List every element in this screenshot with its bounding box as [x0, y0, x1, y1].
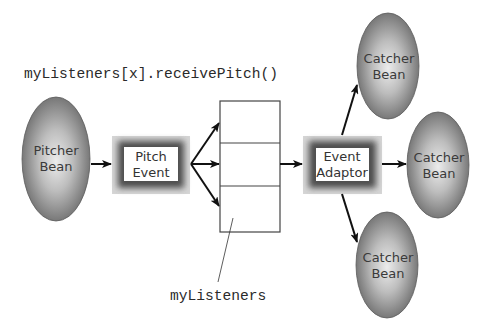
- pitch-event-label-2: Event: [132, 165, 169, 180]
- catcher-bean-middle-label-2: Bean: [422, 166, 455, 181]
- code-caption: myListeners[x].receivePitch(): [24, 66, 278, 82]
- event-adaptor-box: Event Adaptor: [303, 136, 382, 194]
- fan-out-arrows: [191, 123, 219, 206]
- catcher-bean-bottom-shape: [356, 212, 418, 318]
- catcher-bean-bottom: Catcher Bean: [356, 212, 418, 318]
- pitcher-bean: Pitcher Bean: [22, 97, 90, 221]
- pitch-event-box: Pitch Event: [112, 136, 190, 194]
- event-flow-diagram: myListeners[x].receivePitch() Pitcher Be…: [0, 0, 482, 329]
- catcher-bean-middle-shape: [407, 112, 469, 218]
- arrow-to-slot-1: [191, 123, 219, 164]
- catcher-bean-middle: Catcher Bean: [407, 112, 469, 218]
- pitcher-bean-label-1: Pitcher: [34, 143, 80, 158]
- catcher-bean-top: Catcher Bean: [357, 13, 419, 119]
- event-adaptor-label-1: Event: [323, 149, 360, 164]
- catcher-bean-middle-label-1: Catcher: [414, 150, 466, 165]
- arrow-adaptor-to-catcher-3: [342, 194, 357, 242]
- catcher-bean-top-shape: [357, 13, 419, 119]
- arrow-adaptor-to-catcher-1: [342, 85, 357, 135]
- pitch-event-label-1: Pitch: [135, 149, 167, 164]
- pitcher-bean-label-2: Bean: [39, 159, 72, 174]
- catcher-bean-top-label-2: Bean: [372, 67, 405, 82]
- listener-array: [220, 101, 280, 232]
- event-adaptor-label-2: Adaptor: [316, 165, 368, 180]
- catcher-bean-top-label-1: Catcher: [364, 51, 416, 66]
- array-label: myListeners: [170, 288, 266, 304]
- catcher-bean-bottom-label-2: Bean: [371, 266, 404, 281]
- catcher-bean-bottom-label-1: Catcher: [363, 250, 415, 265]
- arrow-to-slot-3: [191, 164, 219, 206]
- listener-array-box: [220, 101, 280, 232]
